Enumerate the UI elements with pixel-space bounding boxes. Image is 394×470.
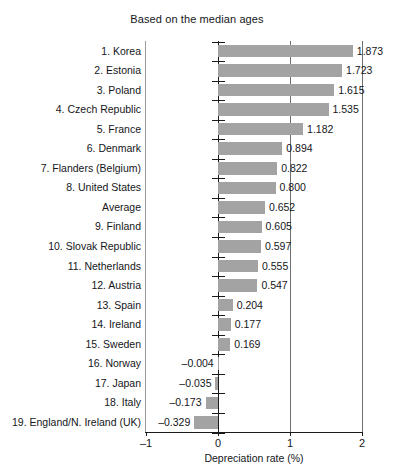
bar-category-label: 12. Austria [0,279,141,291]
table-row: 17. Japan–0.035 [0,374,394,394]
plot-area: 1. Korea1.8732. Estonia1.7233. Poland1.6… [0,0,394,470]
bar-category-label: 2. Estonia [0,64,141,76]
bar-category-label: 4. Czech Republic [0,103,141,115]
table-row: Average0.652 [0,198,394,218]
zero-axis-tick [212,276,225,277]
bar-category-label: 11. Netherlands [0,260,141,272]
x-axis-label: Depreciation rate (%) [145,452,363,464]
bar [218,84,334,97]
bar [218,260,258,273]
bar [218,299,233,312]
zero-axis-tick [212,159,225,160]
bar [218,45,353,58]
bar [194,416,218,429]
bar-value-label: 0.822 [281,162,307,174]
bar [218,162,277,175]
table-row: 16. Norway–0.004 [0,354,394,374]
bar [218,182,276,195]
zero-axis-tick [212,393,225,394]
bar-category-label: 19. England/N. Ireland (UK) [0,416,141,428]
bar-value-label: 0.169 [234,338,260,350]
bar-value-label: 0.177 [235,318,261,330]
bar [218,103,329,116]
table-row: 15. Sweden0.169 [0,335,394,355]
bar-value-label: 0.597 [265,240,291,252]
bar [218,201,265,214]
bar-value-label: 1.182 [307,123,333,135]
table-row: 13. Spain0.204 [0,296,394,316]
zero-axis-tick [212,257,225,258]
bar-value-label: 1.873 [357,45,383,57]
bar-category-label: 14. Ireland [0,318,141,330]
table-row: 2. Estonia1.723 [0,61,394,81]
bar [218,64,342,77]
bar-category-label: 8. United States [0,181,141,193]
table-row: 14. Ireland0.177 [0,315,394,335]
x-axis-tick-label: 2 [342,437,382,449]
zero-axis-tick [212,315,225,316]
zero-axis-tick [212,296,225,297]
bar-value-label: 0.800 [280,181,306,193]
x-axis-tick-label: 0 [198,437,238,449]
x-axis-tick-mark [146,432,147,436]
table-row: 1. Korea1.873 [0,42,394,62]
bar-category-label: Average [0,201,141,213]
bar [218,338,230,351]
zero-axis-tick [212,237,225,238]
table-row: 9. Finland0.605 [0,217,394,237]
table-row: 7. Flanders (Belgium)0.822 [0,159,394,179]
bar-category-label: 17. Japan [0,377,141,389]
zero-axis-tick [212,335,225,336]
zero-axis-tick [212,198,225,199]
bar [218,221,262,234]
bar-value-label: 0.894 [286,142,312,154]
bar [218,123,303,136]
x-axis-tick-mark [218,432,219,436]
bar [218,142,282,155]
x-axis-tick-label: –1 [126,437,166,449]
bar [215,377,218,390]
bar [218,279,257,292]
bar [218,357,219,370]
chart-page: Based on the median ages 1. Korea1.8732.… [0,0,394,470]
bar [218,240,261,253]
zero-axis-tick [212,81,225,82]
table-row: 11. Netherlands0.555 [0,257,394,277]
bar-category-label: 13. Spain [0,299,141,311]
bar-category-label: 6. Denmark [0,142,141,154]
bar-category-label: 5. France [0,123,141,135]
zero-axis-tick [212,42,225,43]
bar-value-label: 0.555 [262,260,288,272]
zero-axis-tick [212,120,225,121]
bar-value-label: 0.605 [266,220,292,232]
bar [206,397,218,410]
table-row: 19. England/N. Ireland (UK)–0.329 [0,413,394,433]
bar-value-label: –0.035 [179,377,211,389]
bar-value-label: 0.547 [261,279,287,291]
bar-category-label: 18. Italy [0,396,141,408]
bar [218,318,231,331]
zero-axis-tick [212,178,225,179]
zero-axis-tick [212,374,225,375]
bar-category-label: 9. Finland [0,220,141,232]
table-row: 12. Austria0.547 [0,276,394,296]
zero-axis-tick [212,61,225,62]
bar-value-label: 0.204 [237,299,263,311]
x-axis-tick-label: 1 [270,437,310,449]
bar-category-label: 15. Sweden [0,338,141,350]
table-row: 18. Italy–0.173 [0,393,394,413]
zero-axis-tick [212,139,225,140]
bar-value-label: 0.652 [269,201,295,213]
bar-category-label: 10. Slovak Republic [0,240,141,252]
bar-value-label: 1.615 [338,84,364,96]
zero-axis-tick [212,217,225,218]
x-axis-tick-mark [290,432,291,436]
bar-value-label: –0.173 [169,396,201,408]
x-axis-tick-mark [362,432,363,436]
table-row: 8. United States0.800 [0,178,394,198]
table-row: 5. France1.182 [0,120,394,140]
table-row: 4. Czech Republic1.535 [0,100,394,120]
bar-category-label: 7. Flanders (Belgium) [0,162,141,174]
bar-value-label: 1.723 [346,64,372,76]
bar-category-label: 1. Korea [0,45,141,57]
